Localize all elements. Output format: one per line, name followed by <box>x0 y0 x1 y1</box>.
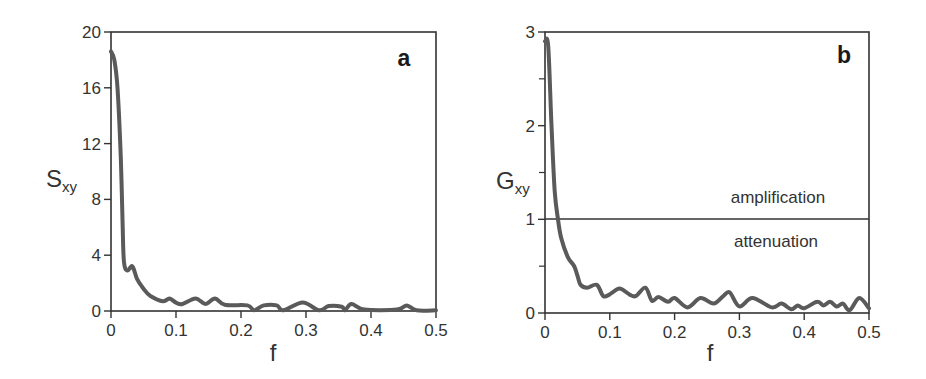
x-axis-a: 00.10.20.30.40.5 <box>106 311 448 340</box>
y-tick-label: 2 <box>526 117 535 136</box>
series-line-gxy <box>545 39 869 311</box>
y-axis-a: 048121620 <box>82 23 111 321</box>
plot-frame-a <box>111 32 436 311</box>
y-axis-title-b: Gxy <box>496 167 530 197</box>
x-tick-label: 0.4 <box>359 321 383 340</box>
panel-letter-a: a <box>398 45 411 71</box>
x-tick-label: 0.1 <box>598 323 622 342</box>
series-line-sxy <box>111 52 436 311</box>
x-tick-label: 0 <box>106 321 115 340</box>
plot-frame-b <box>545 32 869 313</box>
x-axis-b: 00.10.20.30.40.5 <box>540 313 881 342</box>
x-tick-label: 0.3 <box>728 323 752 342</box>
x-tick-label: 0.4 <box>792 323 816 342</box>
y-tick-label: 20 <box>82 23 101 42</box>
y-axis-b: 0123 <box>526 23 545 323</box>
x-tick-label: 0 <box>540 323 549 342</box>
y-tick-label: 0 <box>92 302 101 321</box>
x-tick-label: 0.5 <box>424 321 448 340</box>
chart-panel-a: 048121620 00.10.20.30.40.5 a Sxy f <box>46 23 448 366</box>
x-tick-label: 0.1 <box>164 321 188 340</box>
x-tick-label: 0.3 <box>294 321 318 340</box>
chart-panel-b: 0123 00.10.20.30.40.5 amplification atte… <box>496 23 881 366</box>
panel-letter-b: b <box>837 42 851 68</box>
amplification-label: amplification <box>731 188 826 207</box>
x-tick-label: 0.5 <box>857 323 881 342</box>
y-tick-label: 0 <box>526 304 535 323</box>
x-tick-label: 0.2 <box>229 321 253 340</box>
y-tick-label: 4 <box>92 246 101 265</box>
y-tick-label: 1 <box>526 210 535 229</box>
figure: 048121620 00.10.20.30.40.5 a Sxy f 0123 … <box>0 0 926 379</box>
y-tick-label: 16 <box>82 79 101 98</box>
x-axis-title-a: f <box>270 339 277 366</box>
y-axis-title-a: Sxy <box>46 165 78 195</box>
y-tick-label: 3 <box>526 23 535 42</box>
attenuation-label: attenuation <box>734 232 818 251</box>
x-tick-label: 0.2 <box>663 323 687 342</box>
y-tick-label: 12 <box>82 135 101 154</box>
y-tick-label: 8 <box>92 190 101 209</box>
x-axis-title-b: f <box>707 339 714 366</box>
